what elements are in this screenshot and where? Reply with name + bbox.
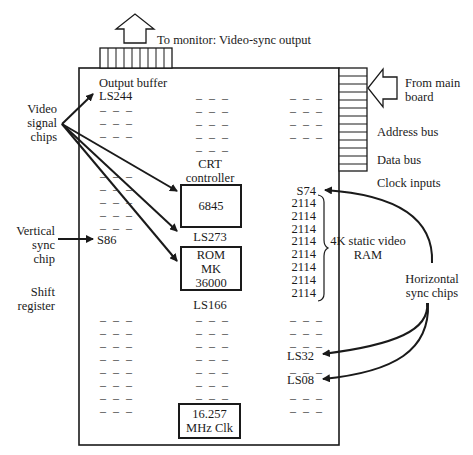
chip-ls273: LS273 xyxy=(180,230,240,244)
chip-unlabeled: – – – xyxy=(290,327,324,339)
chip-2114: 2114 xyxy=(270,197,316,210)
chip-unlabeled: – – – xyxy=(290,92,324,104)
video-ram-chips: 2114 2114 2114 2114 2114 2114 2114 2114 xyxy=(270,197,316,299)
chip-unlabeled: – – – xyxy=(100,130,134,142)
chip-unlabeled: – – – xyxy=(100,340,134,352)
chip-unlabeled: – – – xyxy=(196,353,230,365)
horizontal-sync-chips-label: Horizontal sync chips xyxy=(397,272,467,300)
chip-unlabeled: – – – xyxy=(196,340,230,352)
clock-inputs-label: Clock inputs xyxy=(377,176,441,190)
chip-unlabeled: – – – xyxy=(100,366,134,378)
chip-2114: 2114 xyxy=(270,274,316,287)
chip-unlabeled: – – – xyxy=(196,366,230,378)
chip-unlabeled: – – – xyxy=(196,118,230,130)
crt-controller-label: CRT controller xyxy=(180,157,240,185)
shift-register-label: Shift register xyxy=(5,285,55,313)
clock-16-257mhz: 16.257 MHz Clk xyxy=(178,403,241,439)
top-edge-connector xyxy=(100,48,172,68)
chip-unlabeled: – – – xyxy=(196,144,230,156)
vertical-sync-chip-label: Vertical sync chip xyxy=(5,224,55,266)
chip-unlabeled: – – – xyxy=(290,405,324,417)
chip-unlabeled: – – – xyxy=(100,405,134,417)
chip-6845-crt-controller: 6845 xyxy=(180,184,242,228)
chip-unlabeled: – – – xyxy=(196,314,230,326)
chip-unlabeled: – – – xyxy=(100,104,134,116)
chip-unlabeled: – – – xyxy=(100,183,134,195)
chip-2114: 2114 xyxy=(270,287,316,300)
video-ram-label: 4K static video RAM xyxy=(327,234,409,262)
chip-unlabeled: – – – xyxy=(196,92,230,104)
chip-unlabeled: – – – xyxy=(196,131,230,143)
chip-rom-mk36000: ROM MK 36000 xyxy=(180,246,242,291)
chip-unlabeled: – – – xyxy=(196,105,230,117)
chip-unlabeled: – – – xyxy=(100,392,134,404)
chip-ls166-shift-register: LS166 xyxy=(180,298,240,312)
chip-unlabeled: – – – xyxy=(290,392,324,404)
video-signal-chips-label: Video signal chips xyxy=(10,102,57,144)
chip-unlabeled: – – – xyxy=(100,209,134,221)
chip-unlabeled: – – – xyxy=(100,170,134,182)
chip-ls32: LS32 xyxy=(287,349,314,363)
chip-unlabeled: – – – xyxy=(196,379,230,391)
chip-unlabeled: – – – xyxy=(196,327,230,339)
monitor-output-label: To monitor: Video-sync output xyxy=(157,33,311,47)
chip-unlabeled: – – – xyxy=(100,353,134,365)
data-bus-label: Data bus xyxy=(377,153,421,167)
chip-unlabeled: – – – xyxy=(100,196,134,208)
right-edge-connector xyxy=(339,68,367,171)
address-bus-label: Address bus xyxy=(377,125,438,139)
output-buffer-label: Output buffer xyxy=(99,76,167,90)
chip-s86: S86 xyxy=(97,233,116,247)
chip-unlabeled: – – – xyxy=(290,314,324,326)
chip-unlabeled: – – – xyxy=(290,118,324,130)
chip-unlabeled: – – – xyxy=(100,379,134,391)
chip-unlabeled: – – – xyxy=(290,105,324,117)
output-up-arrow-icon xyxy=(116,14,154,43)
from-main-board-label: From main board xyxy=(405,76,460,104)
input-left-arrow-icon xyxy=(368,69,397,107)
chip-ls244: LS244 xyxy=(99,89,132,103)
chip-unlabeled: – – – xyxy=(290,131,324,143)
chip-ls08: LS08 xyxy=(287,373,314,387)
chip-unlabeled: – – – xyxy=(100,327,134,339)
chip-2114: 2114 xyxy=(270,261,316,274)
chip-2114: 2114 xyxy=(270,210,316,223)
chip-unlabeled: – – – xyxy=(100,314,134,326)
chip-unlabeled: – – – xyxy=(100,117,134,129)
